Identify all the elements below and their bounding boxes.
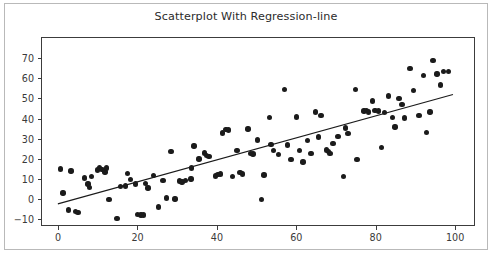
scatter-point [196, 156, 201, 161]
scatter-point [392, 124, 397, 129]
scatter-point [438, 82, 443, 87]
y-tick-label: 60 [0, 73, 34, 84]
scatter-point [250, 151, 255, 156]
scatter-point [58, 166, 63, 171]
scatter-point [189, 165, 194, 170]
scatter-point [268, 142, 273, 147]
scatter-point [261, 172, 266, 177]
y-tick-mark [38, 119, 42, 120]
scatter-point [218, 171, 223, 176]
x-tick-mark [217, 226, 218, 230]
y-tick-label: −10 [0, 214, 34, 225]
scatter-point [288, 157, 293, 162]
scatter-point [294, 114, 299, 119]
x-tick-mark [376, 226, 377, 230]
scatter-point [446, 69, 451, 74]
y-tick-label: 30 [0, 133, 34, 144]
scatter-point [427, 109, 432, 114]
scatter-point [133, 181, 138, 186]
scatter-point [156, 204, 161, 209]
scatter-point [125, 171, 130, 176]
scatter-point [141, 212, 146, 217]
scatter-point [255, 137, 260, 142]
x-tick-label: 20 [131, 232, 143, 243]
scatter-point [234, 148, 239, 153]
x-tick-label: 60 [290, 232, 302, 243]
scatter-point [308, 151, 313, 156]
scatter-point [106, 197, 111, 202]
scatter-point [402, 115, 407, 120]
figure-canvas: Scatterplot With Regression-line −100102… [0, 0, 492, 254]
scatter-point [188, 176, 193, 181]
scatter-point [191, 143, 196, 148]
chart-title: Scatterplot With Regression-line [0, 10, 492, 23]
scatter-point [164, 195, 169, 200]
y-tick-label: 0 [0, 194, 34, 205]
x-tick-mark [455, 226, 456, 230]
x-tick-label: 100 [446, 232, 464, 243]
scatter-point [416, 113, 421, 118]
y-tick-label: 40 [0, 113, 34, 124]
x-tick-label: 80 [370, 232, 382, 243]
scatter-point [341, 174, 346, 179]
y-tick-mark [38, 219, 42, 220]
scatter-point [353, 87, 358, 92]
scatter-point [66, 207, 71, 212]
y-tick-label: 10 [0, 173, 34, 184]
y-tick-mark [38, 179, 42, 180]
y-tick-mark [38, 78, 42, 79]
scatter-point [376, 108, 381, 113]
y-tick-label: 70 [0, 53, 34, 64]
regression-line [58, 95, 453, 204]
x-tick-mark [296, 226, 297, 230]
scatter-point [330, 141, 335, 146]
x-tick-mark [58, 226, 59, 230]
y-tick-label: 50 [0, 93, 34, 104]
scatter-point [434, 71, 439, 76]
scatter-point [104, 165, 109, 170]
scatter-point [335, 134, 340, 139]
scatter-point [60, 190, 65, 195]
plot-area [41, 37, 475, 226]
x-tick-label: 40 [211, 232, 223, 243]
scatter-point [430, 58, 435, 63]
y-tick-label: 20 [0, 153, 34, 164]
scatter-point [145, 185, 150, 190]
y-tick-mark [38, 58, 42, 59]
scatter-point [172, 196, 177, 201]
x-tick-mark [137, 226, 138, 230]
scatter-point [300, 159, 305, 164]
y-tick-mark [38, 199, 42, 200]
y-tick-mark [38, 139, 42, 140]
y-tick-mark [38, 159, 42, 160]
scatter-point [316, 134, 321, 139]
scatter-point [206, 154, 211, 159]
scatter-point [327, 151, 332, 156]
scatter-point [226, 127, 231, 132]
scatter-point [318, 113, 323, 118]
y-tick-mark [38, 98, 42, 99]
scatter-point [82, 175, 87, 180]
scatter-point [160, 178, 165, 183]
scatter-point [240, 171, 245, 176]
x-tick-label: 0 [55, 232, 61, 243]
scatter-point [68, 168, 73, 173]
scatter-point [245, 126, 250, 131]
